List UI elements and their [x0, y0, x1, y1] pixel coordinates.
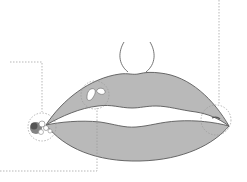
lips-diagram — [0, 0, 247, 182]
callout-line-left-upper — [10, 62, 42, 112]
philtrum-outline — [120, 42, 154, 72]
lips-illustration — [0, 0, 247, 182]
lower-lip — [46, 121, 229, 161]
upper-lip — [46, 72, 229, 126]
